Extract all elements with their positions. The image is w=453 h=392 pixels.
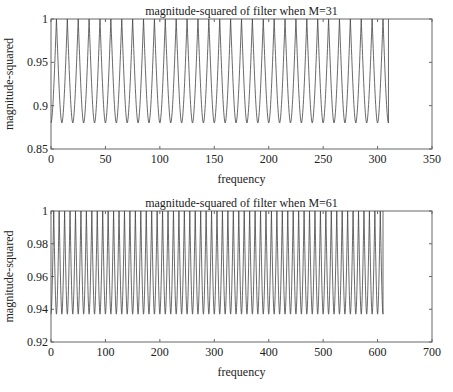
x-tick-label: 300 <box>205 345 223 359</box>
x-tick-label: 300 <box>369 152 387 166</box>
x-tick-label: 500 <box>314 345 332 359</box>
chart-panel-2: 01002003004005006007000.920.940.960.981m… <box>2 196 441 379</box>
y-tick-label: 0.92 <box>27 335 48 349</box>
y-axis-label: magnitude-squared <box>2 231 16 323</box>
x-tick-label: 250 <box>314 152 332 166</box>
y-tick-label: 1 <box>42 204 48 218</box>
chart-title: magnitude-squared of filter when M=31 <box>145 4 338 18</box>
y-tick-label: 1 <box>42 12 48 26</box>
series-line <box>51 211 383 314</box>
chart-panel-1: 0501001502002503003500.850.90.951magnitu… <box>2 4 441 186</box>
x-tick-label: 0 <box>48 345 54 359</box>
y-axis-label: magnitude-squared <box>2 38 16 130</box>
y-tick-label: 0.9 <box>33 99 48 113</box>
x-tick-label: 400 <box>260 345 278 359</box>
figure: 0501001502002503003500.850.90.951magnitu… <box>0 0 453 392</box>
chart-title: magnitude-squared of filter when M=61 <box>145 196 338 210</box>
x-tick-label: 100 <box>151 152 169 166</box>
y-tick-label: 0.96 <box>27 270 48 284</box>
x-tick-label: 100 <box>96 345 114 359</box>
x-axis-label: frequency <box>218 172 266 186</box>
x-axis-label: frequency <box>218 365 266 379</box>
x-tick-label: 700 <box>423 345 441 359</box>
y-tick-label: 0.94 <box>27 302 48 316</box>
y-tick-label: 0.98 <box>27 237 48 251</box>
y-tick-label: 0.85 <box>27 142 48 156</box>
x-tick-label: 200 <box>151 345 169 359</box>
series-line <box>51 19 388 123</box>
x-tick-label: 50 <box>99 152 111 166</box>
x-tick-label: 200 <box>260 152 278 166</box>
y-tick-label: 0.95 <box>27 55 48 69</box>
x-tick-label: 150 <box>205 152 223 166</box>
x-tick-label: 350 <box>423 152 441 166</box>
x-tick-label: 0 <box>48 152 54 166</box>
x-tick-label: 600 <box>369 345 387 359</box>
